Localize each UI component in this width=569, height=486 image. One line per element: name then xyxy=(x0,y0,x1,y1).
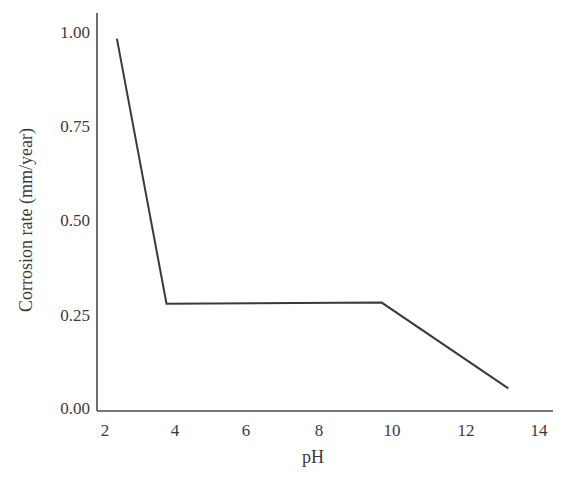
x-tick-label: 4 xyxy=(171,421,180,440)
y-tick-label: 0.50 xyxy=(60,211,90,230)
x-tick-labels: 2 4 6 8 10 12 14 xyxy=(101,421,548,440)
y-tick-label: 0.00 xyxy=(60,399,90,418)
x-tick-label: 10 xyxy=(384,421,401,440)
x-tick-label: 2 xyxy=(101,421,110,440)
y-tick-label: 1.00 xyxy=(60,23,90,42)
x-tick-label: 8 xyxy=(315,421,324,440)
x-tick-label: 6 xyxy=(242,421,251,440)
x-axis-label: pH xyxy=(302,447,324,467)
y-tick-label: 0.75 xyxy=(60,117,90,136)
y-tick-labels: 0.00 0.25 0.50 0.75 1.00 xyxy=(60,23,90,418)
chart: 0.00 0.25 0.50 0.75 1.00 2 4 6 8 10 12 1… xyxy=(0,0,569,486)
x-tick-label: 12 xyxy=(458,421,475,440)
x-tick-label: 14 xyxy=(531,421,549,440)
corrosion-rate-line xyxy=(117,39,508,389)
y-axis-label: Corrosion rate (mm/year) xyxy=(16,128,37,312)
y-tick-label: 0.25 xyxy=(60,306,90,325)
